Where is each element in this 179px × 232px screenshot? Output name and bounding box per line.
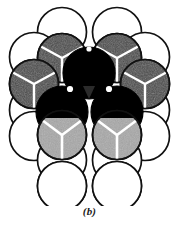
figure-container: (b)	[0, 0, 179, 232]
contact-highlight-right	[106, 86, 112, 92]
open-circle-bottom-right-front	[93, 162, 142, 207]
contact-highlight-top	[86, 46, 91, 51]
figure-caption: (b)	[0, 205, 179, 217]
sphere-packing-illustration	[0, 0, 179, 206]
contact-highlight-left	[67, 86, 73, 92]
sphere-packing-svg	[0, 0, 179, 206]
open-circle-bottom-left-front	[38, 162, 87, 207]
